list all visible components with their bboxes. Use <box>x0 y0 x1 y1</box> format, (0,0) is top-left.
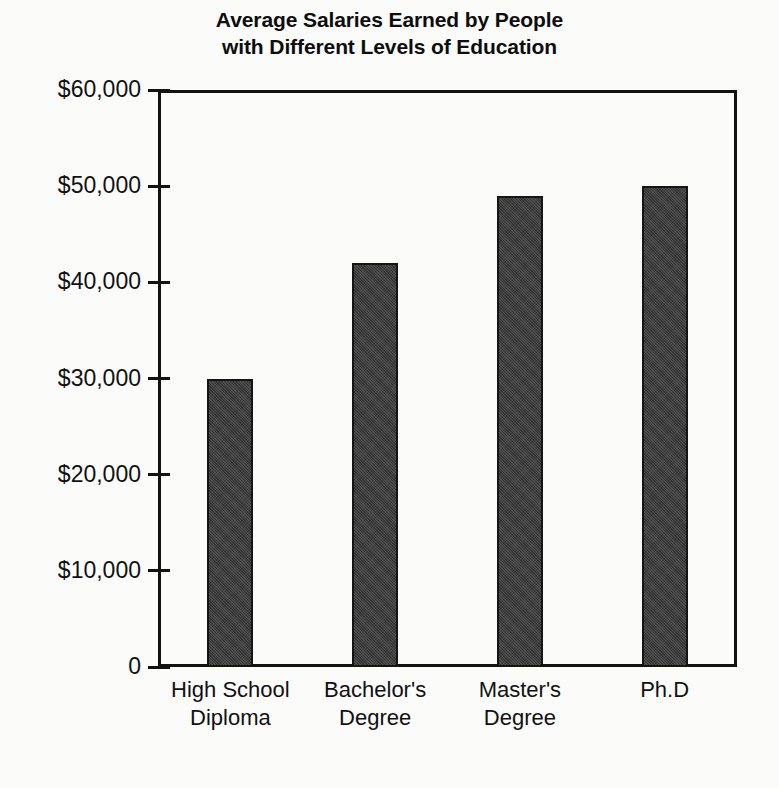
y-axis-tick-label-text: $50,000 <box>1 174 141 197</box>
x-axis-category-label-line-2: Degree <box>300 704 451 732</box>
x-axis-category-label: Master'sDegree <box>445 676 596 732</box>
y-axis-tick <box>148 89 170 92</box>
y-axis-tick <box>148 377 170 380</box>
y-axis-tick <box>148 473 170 476</box>
y-axis-tick-label: $40,000 <box>0 270 141 293</box>
bar <box>642 186 688 667</box>
y-axis-tick <box>148 666 170 669</box>
y-axis-tick-label-text: $40,000 <box>1 270 141 293</box>
y-axis-tick-label: $60,000 <box>0 78 141 101</box>
x-axis-category-label-line-1: High School <box>155 676 306 704</box>
y-axis-tick <box>148 569 170 572</box>
bar <box>352 263 398 667</box>
y-axis-tick-label-text: $10,000 <box>1 559 141 582</box>
y-axis-tick-label: $10,000 <box>0 559 141 582</box>
y-axis-tick-label: $20,000 <box>0 463 141 486</box>
y-axis-tick-label-text: $30,000 <box>1 367 141 390</box>
y-axis-tick-label-text: $20,000 <box>1 463 141 486</box>
x-axis-category-label: Ph.D <box>589 676 740 704</box>
x-axis-category-label-line-2: Diploma <box>155 704 306 732</box>
bar-chart-figure: 0$10,000$20,000$30,000$40,000$50,000$60,… <box>0 0 779 788</box>
y-axis-tick-label-text: 0 <box>1 655 141 678</box>
x-axis-category-label-line-1: Bachelor's <box>300 676 451 704</box>
x-axis-category-label-line-2: Degree <box>445 704 596 732</box>
y-axis-tick-label: $50,000 <box>0 174 141 197</box>
x-axis-category-label: High SchoolDiploma <box>155 676 306 732</box>
y-axis-tick-label-text: $60,000 <box>1 78 141 101</box>
bar <box>497 196 543 667</box>
bar <box>207 379 253 668</box>
x-axis-category-label: Bachelor'sDegree <box>300 676 451 732</box>
x-axis-category-label-line-1: Master's <box>445 676 596 704</box>
y-axis-tick <box>148 185 170 188</box>
y-axis-tick <box>148 281 170 284</box>
y-axis-tick-label: 0 <box>0 655 141 678</box>
x-axis-category-label-line-1: Ph.D <box>589 676 740 704</box>
y-axis-tick-label: $30,000 <box>0 367 141 390</box>
